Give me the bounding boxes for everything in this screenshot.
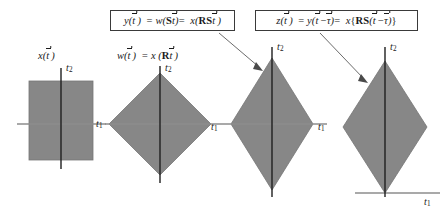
panel3-t2-axis-label: t2 bbox=[277, 41, 284, 53]
connector-arrows bbox=[219, 33, 368, 83]
signal-transform-diagram: y(t ) = w(St)= x(RSt ) z(t ) = y(t −τ)= … bbox=[0, 0, 445, 222]
panel-2-caption-text: w(t ) = x (Rt ) bbox=[117, 50, 178, 61]
panel1-t1-axis-label: t1 bbox=[96, 118, 103, 130]
panel1-t2-axis-label: t2 bbox=[66, 62, 73, 74]
panel-2-rotated bbox=[105, 66, 218, 183]
arrow-y-line bbox=[219, 33, 259, 67]
panel-3-scaled bbox=[218, 47, 327, 197]
panel2-t1-axis-label: t1 bbox=[211, 121, 218, 133]
equation-box-y: y(t ) = w(St)= x(RSt ) bbox=[110, 10, 235, 31]
panel4-t1-axis-label: t1 bbox=[424, 196, 431, 208]
panel-1-caption: x(t ) bbox=[38, 50, 55, 61]
panel4-t2-axis-label: t2 bbox=[390, 41, 397, 53]
arrow-z-line bbox=[320, 33, 364, 79]
panel-4-shifted bbox=[343, 47, 440, 197]
equation-z-text: z(t ) = y(t −τ)= x{RS(t −τ)} bbox=[276, 15, 396, 26]
arrow-z-head bbox=[358, 74, 368, 83]
equation-box-z: z(t ) = y(t −τ)= x{RS(t −τ)} bbox=[255, 10, 418, 31]
panel-1-original bbox=[17, 68, 106, 169]
panel-1-caption-text: x(t ) bbox=[38, 50, 55, 61]
panel3-t1-axis-label: t1 bbox=[318, 121, 325, 133]
diagram-canvas bbox=[0, 0, 445, 222]
panel2-t2-axis-label: t2 bbox=[165, 62, 172, 74]
equation-y-text: y(t ) = w(St)= x(RSt ) bbox=[124, 15, 221, 26]
panel-2-caption: w(t ) = x (Rt ) bbox=[117, 50, 178, 61]
